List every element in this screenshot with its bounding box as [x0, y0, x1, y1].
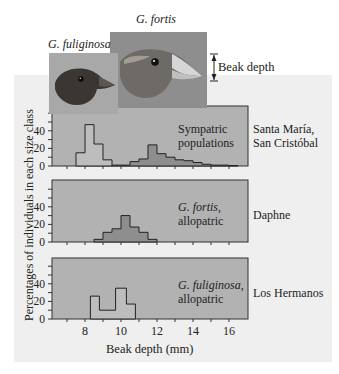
svg-text:8: 8 [82, 324, 88, 338]
location-label-san-cristobal: San Cristóbal [253, 136, 318, 151]
y-axis-label: Percentages of individuals in each size … [22, 109, 37, 321]
fortis-bird-icon [110, 32, 207, 108]
panel-3-inner-label-line2: allopatric [178, 292, 223, 307]
location-label-santa-maria: Santa María, [253, 122, 314, 137]
panel-1-inner-label-line2: populations [178, 136, 234, 151]
fortis-photo [110, 32, 207, 108]
fortis-label: G. fortis [136, 12, 176, 27]
fuliginosa-label: G. fuliginosa [48, 37, 111, 52]
panel-2-inner-label-line1: G. fortis, [178, 200, 221, 215]
location-label-los-hermanos: Los Hermanos [253, 286, 323, 301]
panel-1-inner-label-line1: Sympatric [178, 122, 227, 137]
panel-2-inner-label-line2: allopatric [178, 214, 223, 229]
svg-text:0: 0 [39, 313, 45, 325]
panel-3-inner-label-line1: G. fuliginosa, [178, 278, 244, 293]
location-label-daphne: Daphne [253, 208, 290, 223]
svg-text:0: 0 [39, 160, 45, 172]
svg-text:12: 12 [151, 324, 163, 338]
beak-depth-label: Beak depth [218, 60, 275, 75]
fuliginosa-bird-icon [49, 53, 118, 114]
x-axis-label: Beak depth (mm) [106, 342, 193, 357]
svg-text:16: 16 [223, 324, 235, 338]
fuliginosa-photo [49, 53, 118, 114]
svg-text:0: 0 [39, 236, 45, 248]
svg-text:14: 14 [187, 324, 199, 338]
svg-text:10: 10 [115, 324, 127, 338]
